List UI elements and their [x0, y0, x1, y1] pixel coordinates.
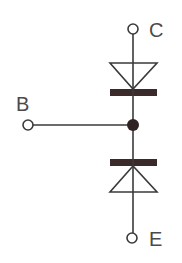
terminal-emitter-circle [127, 233, 137, 243]
label-base: B [16, 93, 29, 115]
terminal-base-circle [23, 120, 33, 130]
diode-transistor-diagram: C B E [0, 0, 182, 263]
junction-node [127, 119, 139, 131]
terminal-collector-circle [128, 24, 138, 34]
label-emitter: E [149, 228, 162, 250]
label-collector: C [149, 19, 163, 41]
